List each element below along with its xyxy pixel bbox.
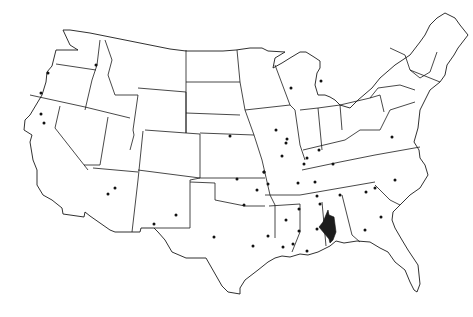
location-dot [40,92,43,95]
location-dot [252,245,255,248]
location-dot [364,229,367,232]
location-dot [290,87,293,90]
location-dot [47,72,50,75]
location-dot [285,142,288,145]
location-dot [243,204,246,207]
location-dot [316,195,319,198]
location-dot [282,246,285,249]
location-dot [267,183,270,186]
location-dot [263,171,266,174]
location-dot [332,163,335,166]
location-dot [303,163,306,166]
location-dot [153,223,156,226]
location-dot [292,243,295,246]
us-landmass [24,13,468,294]
location-dot [275,129,278,132]
location-dot [95,64,98,67]
location-dot [236,178,239,181]
location-dot [374,187,377,190]
location-dot [298,230,301,233]
location-dot [298,208,301,211]
location-dot [286,138,289,141]
location-dot [319,203,322,206]
location-dot [316,228,319,231]
location-dot [213,236,216,239]
location-dot [175,214,178,217]
location-dot [339,194,342,197]
location-dot [107,193,110,196]
location-dot [394,179,397,182]
location-dot [229,135,232,138]
location-dot [314,181,317,184]
map-canvas [0,0,473,317]
location-dot [43,122,46,125]
location-dot [391,136,394,139]
location-dot [267,235,270,238]
location-dot [256,189,259,192]
location-dot [306,157,309,160]
location-dot [365,191,368,194]
location-dot [114,187,117,190]
location-dot [306,250,309,253]
location-dot [281,155,284,158]
us-map: United States map with marked locations [0,0,473,317]
location-dot [380,216,383,219]
us-outline [24,13,468,294]
location-dot [318,149,321,152]
location-dot [40,113,43,116]
location-dot [297,182,300,185]
location-dot [320,80,323,83]
location-dot [285,219,288,222]
